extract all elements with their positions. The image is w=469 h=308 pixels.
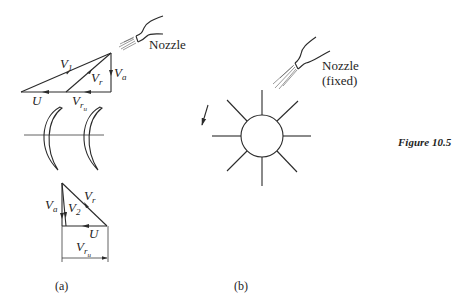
nozzle-a-spray	[119, 37, 136, 50]
rotation-direction-arrow-icon	[202, 105, 208, 125]
v1-label: V1	[60, 56, 72, 73]
spoke-nw	[227, 100, 247, 121]
outlet-velocity-triangle: Va V2 Vr U Vru	[45, 183, 108, 262]
vru-label: Vru	[72, 93, 87, 113]
turbine-blades	[24, 107, 104, 170]
nozzle-b-upper-wall	[295, 37, 316, 63]
va-arrowhead-icon	[109, 70, 113, 76]
u-label: U	[32, 93, 43, 108]
v2-label: V2	[68, 200, 81, 217]
v2-vector	[62, 183, 66, 226]
spoke-sw	[227, 151, 247, 171]
inlet-velocity-triangle: V1 Vr Va U Vru	[21, 53, 127, 113]
figure-label: Figure 10.5	[397, 136, 452, 148]
spoke-se	[277, 151, 297, 172]
figure-canvas: V1 Vr Va U Vru Nozzle	[0, 0, 469, 308]
blade-left	[44, 107, 62, 170]
vru-arrowhead-icon	[84, 90, 91, 94]
nozzle-b-fixed-label: (fixed)	[322, 73, 357, 88]
nozzle-a-label: Nozzle	[149, 37, 186, 52]
va-label: Va	[114, 65, 127, 82]
nozzle-b-label: Nozzle	[322, 58, 359, 73]
nozzle-b-tip	[295, 63, 298, 69]
u-out-arrowhead-icon	[82, 224, 89, 228]
va-out-arrowhead-icon	[60, 213, 64, 219]
rotor-hub	[241, 115, 283, 157]
spoke-ne	[277, 101, 298, 121]
nozzle-a-tip	[136, 36, 138, 42]
nozzle-a: Nozzle	[119, 16, 186, 52]
blade-right	[84, 107, 102, 170]
caption-b: (b)	[234, 279, 248, 293]
panel-b: Nozzle (fixed) (b)	[202, 37, 359, 293]
nozzle-b-spray	[273, 65, 297, 89]
va-out-label: Va	[45, 197, 58, 214]
rotor-wheel	[212, 90, 311, 186]
u-out-label: U	[89, 226, 100, 241]
vr-label: Vr	[91, 70, 103, 87]
nozzle-b: Nozzle (fixed)	[273, 37, 359, 89]
vru-out-label: Vru	[76, 239, 91, 259]
vr-out-label: Vr	[84, 188, 96, 205]
caption-a: (a)	[55, 279, 68, 293]
nozzle-a-upper-wall	[136, 16, 163, 36]
u-arrowhead-icon	[42, 90, 49, 94]
panel-a: V1 Vr Va U Vru Nozzle	[21, 16, 186, 293]
